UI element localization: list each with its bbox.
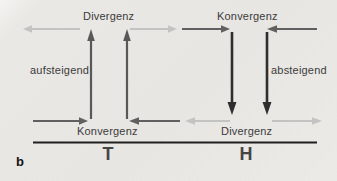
upper-outflow-right-arrow-icon xyxy=(130,25,177,33)
surface-outflow-left-arrow-icon xyxy=(185,117,230,125)
upper-outflow-left-arrow-icon xyxy=(23,25,80,33)
upper-inflow-right-arrow-icon xyxy=(182,25,230,33)
upper-divergence-label: Divergenz xyxy=(83,10,134,22)
circulation-diagram-panel: Divergenz Konvergenz aufsteigend absteig… xyxy=(0,0,337,181)
low-pressure-symbol: T xyxy=(98,144,118,165)
surface-convergence-label: Konvergenz xyxy=(77,125,138,137)
diagram-canvas xyxy=(0,0,337,181)
surface-inflow-left-arrow-icon xyxy=(129,117,180,125)
surface-outflow-right-arrow-icon xyxy=(272,117,322,125)
ascending-arrow-right-icon xyxy=(123,29,131,119)
upper-convergence-label: Konvergenz xyxy=(217,10,278,22)
ascending-label: aufsteigend xyxy=(30,64,89,76)
descending-label: absteigend xyxy=(271,64,327,76)
surface-inflow-right-arrow-icon xyxy=(33,117,88,125)
upper-inflow-left-arrow-icon xyxy=(267,25,317,33)
surface-divergence-label: Divergenz xyxy=(221,125,272,137)
high-pressure-symbol: H xyxy=(236,144,256,165)
descending-arrow-left-icon xyxy=(228,32,237,115)
figure-label: b xyxy=(16,154,24,169)
